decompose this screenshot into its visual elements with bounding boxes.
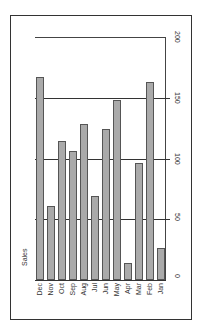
bar-apr	[124, 263, 132, 280]
x-tick-label: Jul	[91, 283, 98, 305]
x-tick-label: Oct	[58, 283, 65, 305]
x-tick-label: Sep	[69, 283, 76, 305]
bar-jun	[102, 129, 110, 280]
bar-nov	[47, 206, 55, 280]
bar-jul	[91, 196, 99, 280]
y-tick-label: 150	[174, 92, 181, 104]
bar-feb	[146, 82, 154, 280]
x-tick-label: Feb	[146, 283, 153, 305]
y-axis-label: Sales	[21, 248, 28, 266]
x-tick-label: Dec	[36, 283, 43, 305]
bar-oct	[58, 141, 66, 280]
bar-jan	[157, 248, 165, 280]
bar-may	[113, 100, 121, 280]
x-tick-label: Aug	[80, 283, 87, 305]
y-tick-label: 50	[174, 213, 181, 221]
bar-sep	[69, 151, 77, 280]
x-tick-label: May	[113, 283, 120, 305]
x-tick-label: Nov	[47, 283, 54, 305]
x-tick-label: Jun	[102, 283, 109, 305]
y-tick-label: 0	[174, 274, 181, 278]
x-tick-label: Apr	[124, 283, 131, 305]
bar-mar	[135, 163, 143, 280]
x-tick-label: Mar	[135, 283, 142, 305]
bar-aug	[80, 124, 88, 280]
y-tick-label: 200	[174, 31, 181, 43]
x-axis-baseline	[35, 280, 166, 281]
x-tick-label: Jan	[157, 283, 164, 305]
bar-dec	[36, 77, 44, 280]
y-tick-label: 100	[174, 153, 181, 165]
